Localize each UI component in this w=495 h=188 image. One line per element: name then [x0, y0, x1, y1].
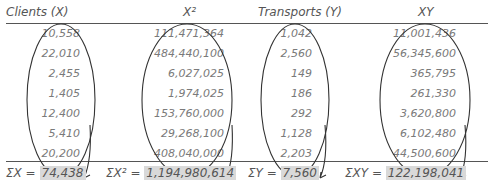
- sum-y: ΣY = 7,560: [248, 166, 319, 180]
- sum-y-label: ΣY =: [248, 166, 277, 180]
- sum-x-label: ΣX =: [6, 166, 36, 180]
- ellipse-annotations: [0, 0, 495, 188]
- sum-xy-value: 122,198,041: [386, 166, 466, 180]
- ellipse-xy: [380, 24, 470, 176]
- sum-x-squared-value: 1,194,980,614: [144, 166, 236, 180]
- sum-x-value: 74,438: [40, 166, 86, 180]
- arrow-transports: [320, 125, 326, 178]
- ellipse-transports: [261, 24, 329, 176]
- sum-xy: ΣXY = 122,198,041: [345, 166, 466, 180]
- sum-xy-label: ΣXY =: [345, 166, 382, 180]
- sum-x-squared-label: ΣX² =: [106, 166, 140, 180]
- ellipse-clients: [27, 24, 95, 176]
- ellipse-x-squared: [142, 24, 232, 176]
- sum-x: ΣX = 74,438: [6, 166, 86, 180]
- sum-y-value: 7,560: [281, 166, 319, 180]
- sum-x-squared: ΣX² = 1,194,980,614: [106, 166, 236, 180]
